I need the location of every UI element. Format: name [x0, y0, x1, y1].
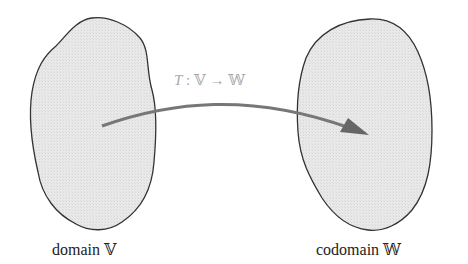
diagram-canvas: T : 𝕍 → 𝕎 domain 𝕍 codomain 𝕎 — [0, 0, 468, 264]
mapping-separator: : — [182, 72, 194, 88]
diagram-graphics — [0, 0, 468, 264]
mapping-to: 𝕎 — [228, 72, 245, 88]
mapping-arrow-symbol: → — [206, 72, 229, 88]
codomain-label: codomain 𝕎 — [316, 240, 401, 259]
domain-set-shape — [30, 18, 156, 230]
mapping-from: 𝕍 — [194, 72, 206, 88]
mapping-label: T : 𝕍 → 𝕎 — [174, 71, 245, 89]
domain-label: domain 𝕍 — [52, 240, 116, 259]
codomain-set-shape — [297, 19, 432, 230]
